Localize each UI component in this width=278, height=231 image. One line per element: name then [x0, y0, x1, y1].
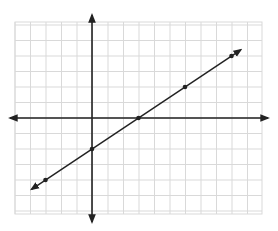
data-point: [43, 178, 48, 183]
data-line: [32, 50, 241, 190]
data-point: [90, 147, 95, 152]
data-point: [229, 54, 234, 59]
line-graph: [0, 0, 278, 231]
data-point: [136, 116, 141, 121]
coordinate-plane: [0, 0, 278, 231]
line-y-equals-two-thirds-x-minus-2: [32, 50, 241, 190]
data-point: [183, 85, 188, 90]
